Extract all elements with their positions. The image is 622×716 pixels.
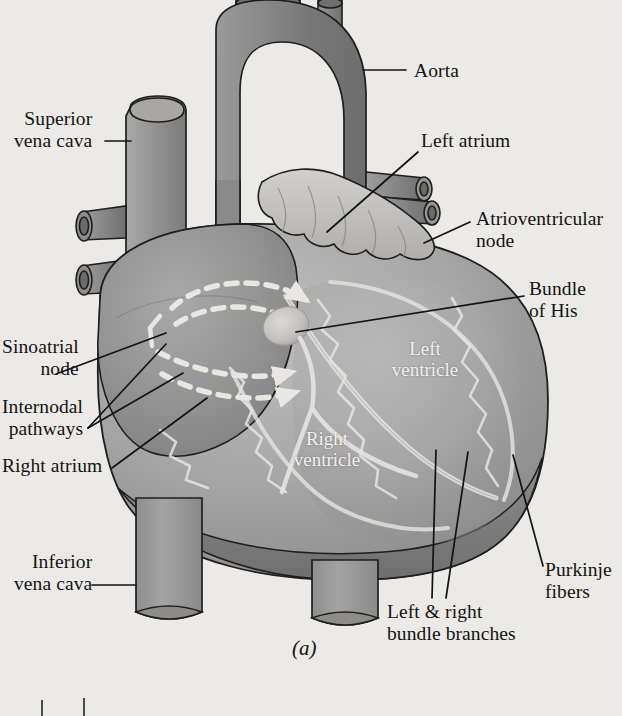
label-internodal-pathways-line: pathways <box>2 418 83 440</box>
label-bundle-of-his: Bundleof His <box>529 278 586 322</box>
label-left-and-right-bundle-branches-line: bundle branches <box>387 623 516 645</box>
label-atrioventricular-node-line: Atrioventricular <box>476 208 603 230</box>
label-sinoatrial-node-line: node <box>2 358 79 380</box>
label-purkinje-fibers-line: Purkinje <box>545 559 612 581</box>
label-left-and-right-bundle-branches-line: Left & right <box>387 601 516 623</box>
label-left-and-right-bundle-branches: Left & rightbundle branches <box>387 601 516 645</box>
chamber-label-right-ventricle: Rightventricle <box>257 428 397 471</box>
chamber-label-left-ventricle-line: ventricle <box>355 359 495 380</box>
label-superior-vena-cava-line: Superior <box>14 108 92 130</box>
label-purkinje-fibers-line: fibers <box>545 581 612 603</box>
label-bundle-of-his-line: of His <box>529 300 586 322</box>
label-internodal-pathways-line: Internodal <box>2 396 83 418</box>
label-bundle-of-his-line: Bundle <box>529 278 586 300</box>
heart-anatomy-illustration <box>0 0 622 716</box>
heart-conduction-figure: AortaSuperiorvena cavaLeft atriumAtriove… <box>0 0 622 716</box>
label-purkinje-fibers: Purkinjefibers <box>545 559 612 603</box>
descending-vessel <box>312 560 378 625</box>
label-atrioventricular-node-line: node <box>476 230 603 252</box>
label-sinoatrial-node-line: Sinoatrial <box>2 336 79 358</box>
label-aorta: Aorta <box>414 60 459 82</box>
chamber-label-right-ventricle-line: ventricle <box>257 449 397 470</box>
inferior-vena-cava-vessel <box>136 498 202 619</box>
chamber-label-right-ventricle-line: Right <box>257 428 397 449</box>
label-left-atrium-line: Left atrium <box>421 130 510 152</box>
label-internodal-pathways: Internodalpathways <box>2 396 83 440</box>
label-right-atrium-line: Right atrium <box>2 455 102 477</box>
label-atrioventricular-node: Atrioventricularnode <box>476 208 603 252</box>
figure-caption: (a) <box>292 636 317 661</box>
label-right-atrium: Right atrium <box>2 455 102 477</box>
label-superior-vena-cava-line: vena cava <box>14 130 92 152</box>
label-sinoatrial-node: Sinoatrialnode <box>2 336 79 380</box>
label-left-atrium: Left atrium <box>421 130 510 152</box>
label-inferior-vena-cava-line: vena cava <box>14 573 92 595</box>
label-aorta-line: Aorta <box>414 60 459 82</box>
label-inferior-vena-cava: Inferiorvena cava <box>14 551 92 595</box>
label-inferior-vena-cava-line: Inferior <box>14 551 92 573</box>
chamber-label-left-ventricle: Leftventricle <box>355 338 495 381</box>
label-superior-vena-cava: Superiorvena cava <box>14 108 92 152</box>
chamber-label-left-ventricle-line: Left <box>355 338 495 359</box>
